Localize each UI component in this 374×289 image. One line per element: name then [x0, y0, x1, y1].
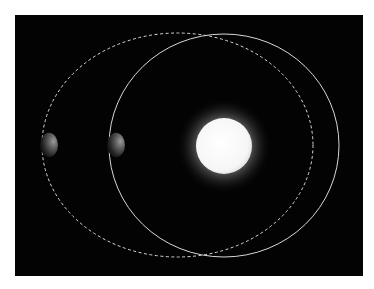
star-icon: [196, 118, 252, 174]
planet-dashed-orbit-icon: [40, 133, 58, 157]
planets-group: [40, 133, 125, 157]
orbit-diagram: [0, 0, 374, 289]
planet-solid-orbit-icon: [107, 133, 125, 157]
